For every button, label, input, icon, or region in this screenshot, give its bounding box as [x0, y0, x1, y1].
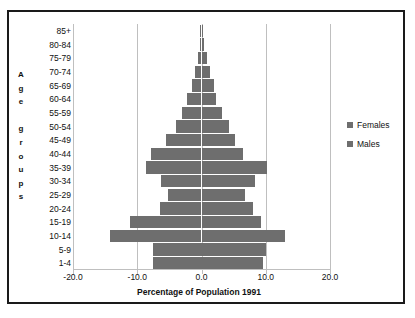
bar-females-65-69[interactable]: [202, 79, 215, 91]
y-axis-title-letter: p: [15, 179, 27, 188]
bar-males-1-4[interactable]: [153, 257, 201, 269]
bar-row: [73, 161, 330, 173]
bar-males-5-9[interactable]: [153, 243, 201, 255]
x-tick-label--10.0: -10.0: [128, 272, 147, 282]
legend-item-females[interactable]: Females: [347, 120, 405, 130]
legend-label-males: Males: [357, 139, 380, 149]
bar-females-50-54[interactable]: [202, 120, 230, 132]
y-tick-label-45-49: 45-49: [27, 135, 71, 145]
y-tick-label-65-69: 65-69: [27, 81, 71, 91]
bar-males-20-24[interactable]: [160, 202, 202, 214]
bar-males-25-29[interactable]: [168, 189, 201, 201]
bar-row: [73, 243, 330, 255]
gridline-20.0: [330, 24, 331, 270]
bar-row: [73, 175, 330, 187]
bar-males-45-49[interactable]: [166, 134, 201, 146]
bar-row: [73, 93, 330, 105]
bar-row: [73, 52, 330, 64]
legend-label-females: Females: [357, 120, 390, 130]
y-tick-label-80-84: 80-84: [27, 40, 71, 50]
bar-females-85+[interactable]: [202, 25, 203, 37]
bar-row: [73, 66, 330, 78]
y-tick-label-15-19: 15-19: [27, 217, 71, 227]
bar-row: [73, 38, 330, 50]
chart-frame: Agegroups 85+80-8475-7970-7465-6960-6455…: [7, 10, 405, 304]
bar-females-55-59[interactable]: [202, 107, 223, 119]
y-axis-title-letter: e: [15, 97, 27, 106]
y-axis-title: Agegroups: [15, 24, 27, 270]
y-tick-label-85+: 85+: [27, 26, 71, 36]
y-tick-label-25-29: 25-29: [27, 190, 71, 200]
x-tick-label-0.0: 0.0: [196, 272, 208, 282]
bar-females-1-4[interactable]: [202, 257, 263, 269]
bar-males-10-14[interactable]: [110, 230, 202, 242]
y-axis-title-letter: g: [15, 84, 27, 93]
chart-legend: Females Males: [347, 120, 405, 158]
y-axis-title-letter: g: [15, 124, 27, 133]
x-tick-label-20.0: 20.0: [322, 272, 339, 282]
x-tick-label-10.0: 10.0: [257, 272, 274, 282]
bar-males-60-64[interactable]: [187, 93, 202, 105]
y-tick-label-60-64: 60-64: [27, 94, 71, 104]
y-axis-title-letter: o: [15, 152, 27, 161]
bar-females-25-29[interactable]: [202, 189, 246, 201]
x-tick-label--20.0: -20.0: [63, 272, 82, 282]
y-tick-label-1-4: 1-4: [27, 258, 71, 268]
chart-canvas: Agegroups 85+80-8475-7970-7465-6960-6455…: [9, 12, 403, 302]
bar-males-35-39[interactable]: [146, 161, 202, 173]
bar-row: [73, 216, 330, 228]
bar-females-30-34[interactable]: [202, 175, 255, 187]
y-tick-label-5-9: 5-9: [27, 245, 71, 255]
y-axis-title-letter: r: [15, 138, 27, 147]
y-tick-label-35-39: 35-39: [27, 163, 71, 173]
y-tick-label-10-14: 10-14: [27, 231, 71, 241]
bar-row: [73, 120, 330, 132]
bar-row: [73, 134, 330, 146]
bar-males-65-69[interactable]: [192, 79, 202, 91]
bar-females-40-44[interactable]: [202, 148, 244, 160]
bar-females-35-39[interactable]: [202, 161, 268, 173]
population-pyramid-screenshot: Agegroups 85+80-8475-7970-7465-6960-6455…: [0, 0, 415, 318]
y-axis-tick-labels: 85+80-8475-7970-7465-6960-6455-5950-5445…: [27, 24, 71, 270]
bar-row: [73, 25, 330, 37]
y-tick-label-40-44: 40-44: [27, 149, 71, 159]
y-axis-title-letter: A: [15, 70, 27, 79]
bar-males-55-59[interactable]: [182, 107, 201, 119]
y-tick-label-70-74: 70-74: [27, 67, 71, 77]
bar-males-30-34[interactable]: [161, 175, 201, 187]
bar-row: [73, 189, 330, 201]
plot-area: [73, 24, 330, 270]
bar-females-10-14[interactable]: [202, 230, 286, 242]
bar-males-50-54[interactable]: [176, 120, 202, 132]
y-tick-label-55-59: 55-59: [27, 108, 71, 118]
bar-females-60-64[interactable]: [202, 93, 216, 105]
bar-females-75-79[interactable]: [202, 52, 207, 64]
legend-item-males[interactable]: Males: [347, 139, 405, 149]
bar-row: [73, 79, 330, 91]
bar-females-70-74[interactable]: [202, 66, 210, 78]
x-axis-line: [73, 269, 330, 270]
bar-females-80-84[interactable]: [202, 38, 205, 50]
bar-females-5-9[interactable]: [202, 243, 266, 255]
bar-males-40-44[interactable]: [151, 148, 201, 160]
bar-males-15-19[interactable]: [130, 216, 202, 228]
bar-row: [73, 230, 330, 242]
bar-row: [73, 107, 330, 119]
bar-females-45-49[interactable]: [202, 134, 235, 146]
y-axis-title-letter: u: [15, 165, 27, 174]
bar-row: [73, 148, 330, 160]
legend-swatch-males: [347, 141, 353, 147]
bar-row: [73, 202, 330, 214]
bar-females-20-24[interactable]: [202, 202, 253, 214]
x-axis-title: Percentage of Population 1991: [49, 287, 349, 297]
bar-row: [73, 257, 330, 269]
y-tick-label-50-54: 50-54: [27, 122, 71, 132]
y-axis-title-letter: s: [15, 192, 27, 201]
y-tick-label-30-34: 30-34: [27, 176, 71, 186]
legend-swatch-females: [347, 122, 353, 128]
bar-females-15-19[interactable]: [202, 216, 262, 228]
x-axis-tick-labels: -20.0-10.00.010.020.0: [73, 272, 330, 286]
y-tick-label-75-79: 75-79: [27, 53, 71, 63]
y-tick-label-20-24: 20-24: [27, 204, 71, 214]
